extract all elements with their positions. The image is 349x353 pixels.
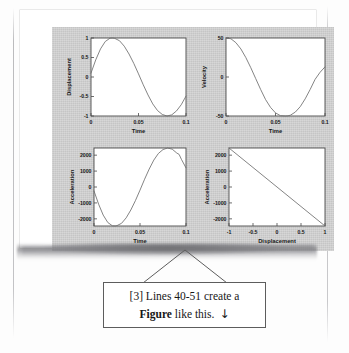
svg-text:50: 50	[218, 35, 224, 41]
callout-bold-word: Figure	[140, 308, 172, 320]
svg-text:Acceleration: Acceleration	[204, 169, 210, 204]
svg-text:1: 1	[324, 229, 327, 235]
svg-text:Time: Time	[269, 128, 283, 134]
svg-text:0.5: 0.5	[81, 54, 88, 60]
figure-page-sheet: 00.050.1-1-0.500.51TimeDisplacement 00.0…	[20, 10, 316, 248]
svg-text:0: 0	[90, 119, 93, 125]
svg-text:-0.5: -0.5	[80, 93, 89, 99]
subplot-displacement-vs-time: 00.050.1-1-0.500.51TimeDisplacement	[54, 31, 194, 139]
svg-text:1: 1	[86, 35, 89, 41]
svg-text:1000: 1000	[80, 168, 92, 174]
svg-text:-1: -1	[84, 113, 89, 119]
scanned-page: 00.050.1-1-0.500.51TimeDisplacement 00.0…	[0, 0, 349, 353]
svg-text:-1: -1	[227, 229, 232, 235]
svg-text:-2000: -2000	[213, 216, 226, 222]
svg-text:0: 0	[276, 229, 279, 235]
svg-text:0: 0	[89, 184, 92, 190]
svg-text:Acceleration: Acceleration	[69, 169, 75, 204]
svg-text:-2000: -2000	[78, 216, 91, 222]
svg-text:-0.5: -0.5	[249, 229, 258, 235]
svg-text:0: 0	[93, 229, 96, 235]
subplot-velocity-vs-time: 00.050.1-50050TimeVelocity	[195, 31, 333, 139]
svg-text:-1000: -1000	[213, 200, 226, 206]
acceleration-vs-time-chart: 00.050.1-2000-1000010002000TimeAccelerat…	[54, 141, 194, 249]
down-arrow-icon: ↓	[214, 307, 229, 321]
acceleration-vs-displacement-chart: -1-0.500.51-2000-1000010002000Displaceme…	[195, 141, 333, 249]
page-gutter-line-left	[13, 8, 14, 338]
callout-box: [3] Lines 40-51 create a Figure like thi…	[103, 282, 266, 328]
subplot-acceleration-vs-time: 00.050.1-2000-1000010002000TimeAccelerat…	[54, 141, 194, 249]
svg-text:0.05: 0.05	[270, 119, 280, 125]
svg-text:Velocity: Velocity	[201, 65, 207, 88]
svg-text:0: 0	[221, 74, 224, 80]
svg-text:0: 0	[224, 184, 227, 190]
svg-text:0: 0	[86, 74, 89, 80]
svg-text:0: 0	[225, 119, 228, 125]
svg-text:Time: Time	[132, 128, 146, 134]
subplot-acceleration-vs-displacement: -1-0.500.51-2000-1000010002000Displaceme…	[195, 141, 333, 249]
callout-line-1: [3] Lines 40-51 create a	[104, 289, 265, 305]
svg-text:0.1: 0.1	[182, 229, 189, 235]
matlab-figure-panel: 00.050.1-1-0.500.51TimeDisplacement 00.0…	[52, 27, 334, 251]
callout-rest-text: like this.	[172, 308, 215, 320]
svg-text:0.05: 0.05	[135, 229, 145, 235]
svg-text:0.1: 0.1	[321, 119, 328, 125]
svg-text:0.05: 0.05	[133, 119, 143, 125]
svg-text:1000: 1000	[215, 168, 227, 174]
svg-text:-1000: -1000	[78, 200, 91, 206]
svg-text:0.5: 0.5	[297, 229, 304, 235]
svg-text:0.1: 0.1	[182, 119, 189, 125]
svg-text:2000: 2000	[80, 152, 92, 158]
velocity-vs-time-chart: 00.050.1-50050TimeVelocity	[195, 31, 333, 139]
displacement-vs-time-chart: 00.050.1-1-0.500.51TimeDisplacement	[54, 31, 194, 139]
callout-line-2: Figure like this.↓	[104, 306, 265, 323]
svg-text:Displacement: Displacement	[66, 58, 72, 96]
svg-text:-50: -50	[216, 113, 224, 119]
callout-pointer	[140, 248, 230, 284]
svg-text:2000: 2000	[215, 152, 227, 158]
